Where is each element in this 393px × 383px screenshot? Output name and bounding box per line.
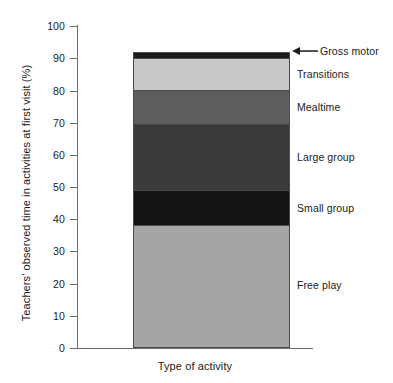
y-tick-label-30: 30	[33, 245, 65, 257]
y-tick-label-10: 10	[33, 310, 65, 322]
y-tick-label-70: 70	[33, 117, 65, 129]
bar-segment-free-play	[134, 225, 289, 347]
y-tick-100	[70, 26, 77, 27]
x-axis-title: Type of activity	[77, 360, 313, 372]
y-tick-90	[70, 58, 77, 59]
y-tick-80	[70, 91, 77, 92]
y-tick-20	[70, 284, 77, 285]
bar-segment-large-group	[134, 124, 289, 191]
y-tick-label-0: 0	[33, 342, 65, 354]
series-label-large-group: Large group	[297, 151, 355, 163]
y-tick-label-100: 100	[33, 20, 65, 32]
y-tick-label-90: 90	[33, 52, 65, 64]
y-tick-0	[70, 348, 77, 349]
bar-segment-mealtime	[134, 90, 289, 124]
stacked-bar-chart: 100 90 80 70 60 50 40 30 20 10 0 Gross m…	[0, 0, 393, 383]
gross-motor-arrow-icon	[292, 47, 318, 56]
series-label-transitions: Transitions	[297, 68, 349, 80]
series-label-small-group: Small group	[297, 202, 354, 214]
bar-segment-small-group	[134, 190, 289, 225]
series-label-gross-motor: Gross motor	[320, 45, 379, 57]
series-label-free-play: Free play	[297, 279, 342, 291]
y-tick-label-20: 20	[33, 278, 65, 290]
y-tick-30	[70, 251, 77, 252]
y-axis-line	[77, 25, 78, 349]
bar-segment-transitions	[134, 58, 289, 90]
series-label-mealtime: Mealtime	[297, 101, 340, 113]
x-axis-line	[77, 348, 313, 349]
y-tick-label-40: 40	[33, 213, 65, 225]
y-tick-10	[70, 316, 77, 317]
stacked-bar	[133, 52, 290, 348]
y-tick-label-50: 50	[33, 181, 65, 193]
y-tick-label-60: 60	[33, 149, 65, 161]
y-tick-50	[70, 187, 77, 188]
y-tick-60	[70, 155, 77, 156]
y-tick-40	[70, 219, 77, 220]
y-axis-title: Teachers' observed time in activities at…	[20, 28, 32, 358]
y-tick-label-80: 80	[33, 85, 65, 97]
y-tick-70	[70, 123, 77, 124]
